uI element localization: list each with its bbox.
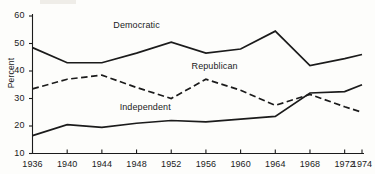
y-axis-tick-label: 30: [9, 93, 25, 103]
x-axis-tick-label: 1952: [161, 159, 181, 169]
data-series-lines: [33, 31, 363, 136]
y-axis-tick-label: 60: [9, 10, 25, 20]
line-chart-plot: [0, 0, 375, 174]
x-axis-tick-label: 1944: [92, 159, 112, 169]
x-axis-tick-label: 1940: [57, 159, 77, 169]
series-label-independent: Independent: [120, 102, 171, 112]
x-axis-tick-label: 1974: [352, 159, 372, 169]
y-axis-tick-label: 50: [9, 38, 25, 48]
x-axis-tick-label: 1936: [22, 159, 42, 169]
y-axis-tick-label: 40: [9, 65, 25, 75]
x-axis-ticks: [33, 150, 363, 154]
chart-figure: Percent 102030405060 1936194019441948195…: [0, 0, 375, 174]
series-label-democratic: Democratic: [113, 20, 160, 30]
x-axis-tick-label: 1948: [126, 159, 146, 169]
series-label-republican: Republican: [192, 61, 238, 71]
x-axis-tick-label: 1968: [300, 159, 320, 169]
x-axis-tick-label: 1956: [196, 159, 216, 169]
x-axis-tick-label: 1960: [230, 159, 250, 169]
y-axis-tick-label: 20: [9, 120, 25, 130]
series-line-independent: [33, 85, 363, 136]
x-axis-tick-label: 1964: [265, 159, 285, 169]
y-axis-tick-label: 10: [9, 148, 25, 158]
